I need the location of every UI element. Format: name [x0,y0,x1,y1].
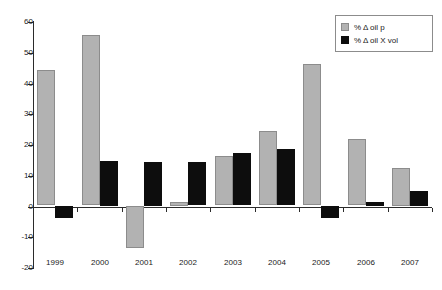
y-tick-label-text: 20 [7,141,33,149]
y-tick-label: 10 [0,172,33,180]
y-tick-label-text: 10 [7,172,33,180]
legend-item-series-1: % Δ oil X vol [341,34,427,46]
bar-2004-series-0 [259,131,277,205]
y-tick-label-text: 50 [7,49,33,57]
bar-2002-series-1 [188,162,206,205]
y-tick-label-text: 60 [7,18,33,26]
chart-legend: % Δ oil p % Δ oil X vol [335,15,433,52]
bar-2001-series-1 [144,162,162,206]
category-label-2001: 2001 [124,258,164,267]
category-label-1999: 1999 [35,258,75,267]
bar-2000-series-1 [100,161,118,206]
category-label-2002: 2002 [168,258,208,267]
legend-label-series-1: % Δ oil X vol [354,36,398,45]
bar-2004-series-1 [277,149,295,205]
category-label-2007: 2007 [390,258,430,267]
bar-2006-series-0 [348,139,366,205]
bar-2003-series-1 [233,153,251,205]
bar-2007-series-1 [410,191,428,206]
bar-2006-series-1 [366,202,384,206]
y-tick-label-text: -10 [7,233,33,241]
category-label-2005: 2005 [301,258,341,267]
bar-2003-series-0 [215,156,233,205]
bar-2005-series-0 [303,64,321,205]
legend-item-series-0: % Δ oil p [341,21,427,33]
bar-1999-series-0 [37,70,55,205]
y-tick-label-text: 0 [7,203,33,211]
y-tick-label: 30 [0,110,33,118]
x-tick-mark [432,208,433,212]
y-tick-label: 0 [0,203,33,211]
y-tick-label: -20 [0,264,33,272]
y-tick-label: 40 [0,80,33,88]
category-label-2006: 2006 [346,258,386,267]
y-tick-label: 60 [0,18,33,26]
y-tick-label-text: 40 [7,80,33,88]
bar-2007-series-0 [392,168,410,206]
bar-chart: 6050403020100-10-20 19992000200120022003… [0,0,442,290]
legend-swatch-icon-series-0 [341,23,349,31]
y-tick-label: 20 [0,141,33,149]
category-label-2004: 2004 [257,258,297,267]
category-label-2003: 2003 [213,258,253,267]
bar-2002-series-0 [170,202,188,206]
y-tick-label: 50 [0,49,33,57]
category-label-2000: 2000 [80,258,120,267]
y-tick-label-text: 30 [7,110,33,118]
bar-2000-series-0 [82,35,100,205]
plot-area [33,21,432,269]
legend-swatch-icon-series-1 [341,36,349,44]
y-tick-label-text: -20 [7,264,33,272]
y-tick-label: -10 [0,233,33,241]
bar-1999-series-1 [55,206,73,218]
legend-label-series-0: % Δ oil p [354,23,385,32]
bar-2005-series-1 [321,206,339,218]
bar-2001-series-0 [126,206,144,248]
